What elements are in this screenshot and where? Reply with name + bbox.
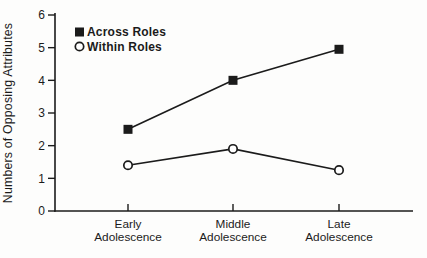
y-tick-label: 2: [38, 139, 45, 153]
x-category-label: LateAdolescence: [305, 217, 373, 244]
legend-item: Within Roles: [75, 40, 162, 54]
x-category-label: EarlyAdolescence: [94, 217, 162, 244]
legend-filled-square-icon: [75, 28, 84, 37]
legend-label: Within Roles: [87, 40, 162, 54]
x-category-label: MiddleAdolescence: [199, 217, 267, 244]
figure-line-chart: 0123456EarlyAdolescenceMiddleAdolescence…: [0, 0, 427, 258]
y-tick-label: 3: [38, 106, 45, 120]
chart-canvas: 0123456EarlyAdolescenceMiddleAdolescence…: [0, 0, 427, 258]
data-point-marker: [124, 161, 132, 169]
series-line-across-roles: [128, 49, 339, 129]
legend-item: Across Roles: [75, 25, 166, 39]
y-tick-label: 4: [38, 74, 45, 88]
data-point-marker: [335, 166, 343, 174]
y-tick-label: 5: [38, 41, 45, 55]
data-point-marker: [229, 145, 237, 153]
legend: Across RolesWithin Roles: [75, 25, 166, 54]
legend-label: Across Roles: [87, 25, 166, 39]
data-point-marker: [229, 76, 238, 85]
y-axis-title: Numbers of Opposing Attributes: [1, 23, 15, 203]
y-tick-label: 0: [38, 204, 45, 218]
y-tick-label: 1: [38, 172, 45, 186]
y-tick-label: 6: [38, 8, 45, 22]
data-point-marker: [335, 45, 344, 54]
data-point-marker: [124, 125, 133, 134]
legend-open-circle-icon: [75, 42, 83, 50]
